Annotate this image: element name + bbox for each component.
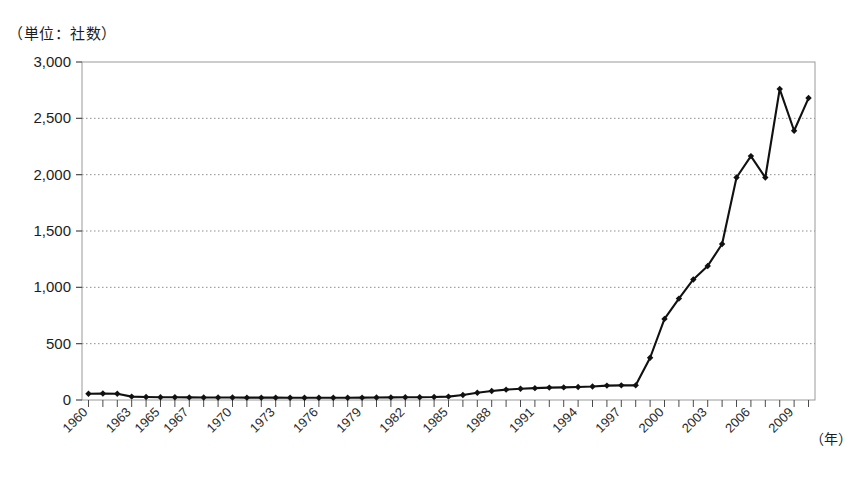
plot-area-frame	[82, 62, 815, 400]
x-axis-tick-label: 1997	[592, 405, 623, 436]
x-axis-tick-label: 1985	[420, 405, 451, 436]
x-axis-tick-label: 2000	[636, 405, 667, 436]
x-axis-tick-label: 1965	[132, 405, 163, 436]
y-axis-tick-label: 1,000	[33, 278, 71, 295]
x-axis-tick-label: 1979	[333, 405, 364, 436]
chart-container: （単位：社数） 05001,0001,5002,0002,5003,000196…	[0, 0, 864, 477]
y-axis-tick-label: 3,000	[33, 53, 71, 70]
line-chart-plot: 05001,0001,5002,0002,5003,00019601963196…	[0, 0, 864, 477]
y-axis-tick-label: 2,000	[33, 166, 71, 183]
x-axis-tick-label: 1994	[549, 405, 580, 436]
x-axis-tick-label: 1982	[376, 405, 407, 436]
x-axis-tick-label: 1967	[160, 405, 191, 436]
y-axis-tick-label: 0	[63, 391, 71, 408]
x-axis-tick-label: 2006	[722, 405, 753, 436]
x-axis-tick-label: 1973	[247, 405, 278, 436]
y-axis-tick-label: 2,500	[33, 109, 71, 126]
x-axis-tick-label: 1960	[60, 405, 91, 436]
x-axis-unit-label: （年）	[810, 428, 852, 448]
x-axis-tick-label: 2009	[765, 405, 796, 436]
x-axis-tick-label: 2003	[679, 405, 710, 436]
x-axis-tick-label: 1963	[103, 405, 134, 436]
x-axis-tick-label: 1970	[204, 405, 235, 436]
y-axis-tick-label: 500	[46, 335, 71, 352]
x-axis-tick-label: 1976	[290, 405, 321, 436]
x-axis-tick-label: 1991	[506, 405, 537, 436]
x-axis-tick-label: 1988	[463, 405, 494, 436]
y-axis-tick-label: 1,500	[33, 222, 71, 239]
